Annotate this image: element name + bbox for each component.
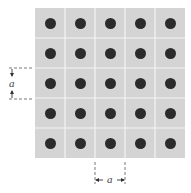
lattice-atom <box>45 48 56 59</box>
lattice-atom <box>105 138 116 149</box>
lattice-atom <box>75 78 86 89</box>
lattice-atom <box>105 18 116 29</box>
lattice-atom <box>165 138 176 149</box>
lattice-atom <box>135 18 146 29</box>
lattice-atom <box>165 108 176 119</box>
lattice-atom <box>75 18 86 29</box>
lattice-atom <box>135 78 146 89</box>
lattice-atom <box>75 48 86 59</box>
lattice-atom <box>75 108 86 119</box>
lattice-atom <box>135 138 146 149</box>
lattice-grid <box>35 8 185 158</box>
lattice-atom <box>105 48 116 59</box>
square-lattice-diagram: a a <box>0 0 191 193</box>
lattice-atom <box>45 138 56 149</box>
lattice-atom <box>45 78 56 89</box>
lattice-atom <box>75 138 86 149</box>
lattice-atom <box>45 18 56 29</box>
lattice-atom <box>165 78 176 89</box>
lattice-atom <box>105 108 116 119</box>
horizontal-spacing-annotation: a <box>95 162 125 185</box>
lattice-atom <box>135 48 146 59</box>
vertical-spacing-label: a <box>9 77 15 89</box>
horizontal-spacing-label: a <box>107 173 113 185</box>
lattice-atom <box>165 48 176 59</box>
vertical-spacing-annotation: a <box>9 68 32 99</box>
lattice-atom <box>45 108 56 119</box>
lattice-atom <box>165 18 176 29</box>
lattice-atom <box>105 78 116 89</box>
lattice-atom <box>135 108 146 119</box>
